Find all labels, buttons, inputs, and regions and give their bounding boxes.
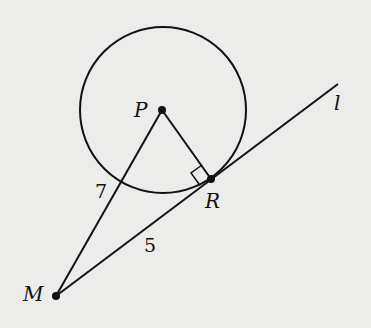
label-p: P bbox=[133, 98, 148, 122]
geometry-diagram: P R M l 7 5 bbox=[0, 0, 371, 328]
label-r: R bbox=[204, 189, 220, 213]
label-line-l: l bbox=[334, 91, 340, 115]
point-p bbox=[158, 106, 166, 114]
length-mp: 7 bbox=[95, 180, 107, 202]
segment-mp bbox=[56, 110, 162, 296]
point-r bbox=[207, 175, 215, 183]
right-angle-marker bbox=[191, 165, 202, 184]
label-m: M bbox=[22, 282, 44, 306]
point-m bbox=[52, 292, 60, 300]
segment-pr bbox=[162, 110, 211, 179]
length-mr: 5 bbox=[144, 234, 156, 256]
